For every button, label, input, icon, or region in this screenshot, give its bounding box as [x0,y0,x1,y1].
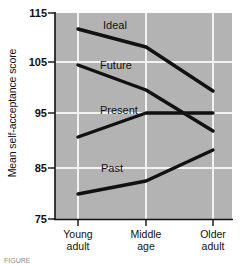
x-tick-label-young-adult: Young adult [46,229,110,252]
x-tick-label-older-adult-line2: adult [181,241,245,253]
x-tick-label-older-adult: Older adult [181,229,245,252]
series-label-present: Present [100,105,138,116]
series-label-past: Past [101,163,123,174]
x-tick-label-middle-age-line2: age [114,241,178,253]
plot-background [55,13,232,219]
x-tick-label-middle-age-line1: Middle [114,229,178,241]
chart-plot [0,0,247,265]
y-tick-marks [48,13,55,219]
figure-container: Mean self-acceptance score 115 105 95 85… [0,0,247,265]
series-label-ideal: Ideal [103,20,127,31]
x-tick-label-young-adult-line2: adult [46,241,110,253]
x-tick-label-middle-age: Middle age [114,229,178,252]
figure-caption: FIGURE [4,257,244,265]
x-tick-label-young-adult-line1: Young [46,229,110,241]
series-label-future: Future [100,60,132,71]
x-tick-label-older-adult-line1: Older [181,229,245,241]
